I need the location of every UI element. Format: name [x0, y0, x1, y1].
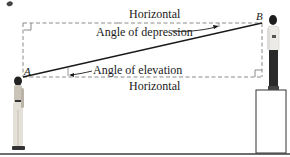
person-b-figure	[267, 15, 279, 90]
figure-fragment-mark	[7, 1, 14, 6]
right-angle-marker-top-left	[24, 23, 31, 30]
horizontal-top-label: Horizontal	[129, 8, 180, 20]
angle-diagram: Horizontal Angle of depression Angle of …	[0, 0, 290, 157]
angle-of-depression-label: Angle of depression	[96, 26, 193, 38]
person-a-figure	[12, 77, 25, 151]
angle-of-elevation-label: Angle of elevation	[93, 64, 182, 76]
right-angle-marker-bottom-right	[255, 70, 262, 77]
building	[256, 90, 286, 153]
elevation-arrow	[68, 68, 92, 77]
point-b-label: B	[256, 11, 263, 22]
point-a-label: A	[24, 66, 31, 77]
ground-line	[0, 153, 290, 155]
horizontal-bottom-label: Horizontal	[129, 80, 180, 92]
